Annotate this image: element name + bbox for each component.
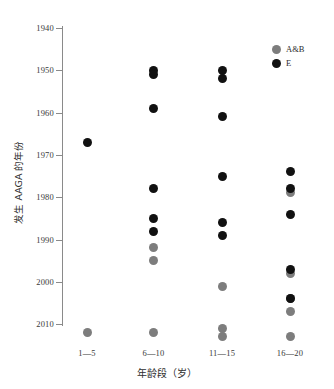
y-axis-tick [56,240,62,241]
y-axis-tick-label: 2010 [20,320,54,329]
legend-item-label: A&B [286,45,304,54]
y-axis-tick-label: 1960 [20,109,54,118]
y-axis-tick [56,197,62,198]
y-axis-tick-label: 1970 [20,151,54,160]
y-axis-tick-label: 1980 [20,193,54,202]
data-point [286,184,295,193]
legend-marker-icon [272,45,281,54]
data-point [286,167,295,176]
x-axis-tick-label: 1—5 [57,348,117,358]
data-point [286,265,295,274]
data-point [83,138,92,147]
data-point [149,104,158,113]
data-point [286,332,295,341]
y-axis-line [62,26,63,326]
y-axis-title: 发生 AAGA 的年份 [11,117,25,247]
data-point [149,70,158,79]
x-axis-title: 年龄段（岁） [0,365,334,380]
data-point [149,243,158,252]
y-axis-tick [56,155,62,156]
data-point [218,112,227,121]
data-point [149,256,158,265]
data-point [218,74,227,83]
legend-item[interactable]: A&B [272,42,304,56]
data-point [149,227,158,236]
data-point [286,294,295,303]
scatter-chart: 19401950196019701980199020002010 发生 AAGA… [0,0,334,389]
y-axis-tick [56,70,62,71]
x-axis-tick-label: 11—15 [192,348,252,358]
y-axis-tick [56,28,62,29]
data-point [218,218,227,227]
data-point [149,328,158,337]
data-point [83,328,92,337]
y-axis-tick [56,113,62,114]
data-point [286,210,295,219]
x-axis-tick-label: 6—10 [124,348,184,358]
data-point [218,231,227,240]
legend: A&BE [272,42,304,70]
data-point [286,307,295,316]
legend-item[interactable]: E [272,56,304,70]
data-point [218,282,227,291]
legend-item-label: E [286,59,291,68]
y-axis-tick-label: 1950 [20,66,54,75]
data-point [149,214,158,223]
x-axis-tick-label: 16—20 [260,348,320,358]
y-axis-tick-label: 1990 [20,236,54,245]
y-axis-tick-label: 2000 [20,278,54,287]
y-axis-tick [56,282,62,283]
y-axis-tick [56,324,62,325]
data-point [149,184,158,193]
y-axis-tick-label: 1940 [20,24,54,33]
data-point [218,172,227,181]
legend-marker-icon [272,59,281,68]
data-point [218,332,227,341]
